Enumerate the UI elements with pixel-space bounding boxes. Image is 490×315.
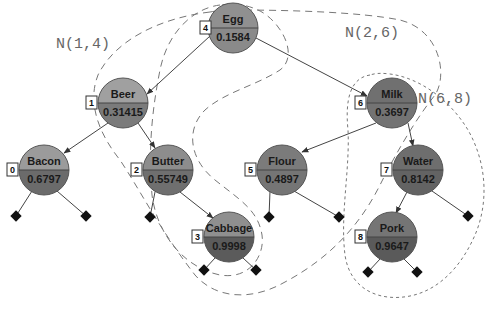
edge-beer-butter — [138, 123, 155, 148]
node-water[interactable]: Water 0.8142 7 — [381, 145, 443, 195]
node-egg[interactable]: Egg 0.1584 4 — [200, 3, 258, 53]
region-label-n68: N(6,8) — [418, 91, 472, 108]
node-priority: 0.55749 — [148, 173, 188, 185]
edge-butter-cabbage — [180, 192, 213, 218]
node-priority: 0.3697 — [375, 106, 409, 118]
node-butter[interactable]: Butter 0.55749 2 — [131, 145, 193, 195]
node-key: 7 — [384, 165, 389, 175]
node-name: Cabbage — [206, 222, 252, 234]
node-key: 2 — [134, 165, 139, 175]
edge-water-pork — [396, 192, 407, 213]
node-priority: 0.4897 — [265, 173, 299, 185]
edge-egg-beer — [147, 36, 210, 94]
leaf-null-icon — [263, 211, 274, 222]
node-name: Milk — [381, 88, 403, 100]
node-name: Pork — [380, 222, 405, 234]
region-label-n26: N(2,6) — [345, 25, 399, 42]
node-key: 0 — [10, 165, 15, 175]
treap-diagram: N(1,4) N(2,6) N(6,8) — [0, 0, 490, 315]
node-cabbage[interactable]: Cabbage 0.9998 3 — [192, 212, 254, 262]
node-name: Flour — [268, 155, 296, 167]
node-key: 1 — [89, 98, 94, 108]
leaf-null-icon — [333, 211, 344, 222]
node-name: Egg — [223, 13, 244, 25]
node-priority: 0.9647 — [375, 240, 409, 252]
node-priority: 0.8142 — [401, 173, 435, 185]
node-key: 5 — [248, 165, 253, 175]
node-key: 3 — [195, 232, 200, 242]
node-pork[interactable]: Pork 0.9647 8 — [355, 212, 417, 262]
node-priority: 0.31415 — [103, 106, 143, 118]
leaf-null-icon — [10, 210, 21, 221]
leaf-null-icon — [462, 210, 473, 221]
node-key: 4 — [203, 23, 208, 33]
node-priority: 0.6797 — [27, 173, 61, 185]
edge-milk-flour — [302, 123, 376, 152]
node-name: Butter — [152, 155, 185, 167]
node-name: Bacon — [27, 155, 61, 167]
node-flour[interactable]: Flour 0.4897 5 — [245, 145, 307, 195]
node-priority: 0.1584 — [216, 31, 251, 43]
node-name: Beer — [111, 88, 136, 100]
node-key: 6 — [358, 98, 363, 108]
node-name: Water — [403, 155, 434, 167]
leaf-null-icon — [144, 211, 155, 222]
edge-egg-milk — [256, 38, 367, 96]
node-bacon[interactable]: Bacon 0.6797 0 — [7, 145, 69, 195]
region-label-n14: N(1,4) — [56, 36, 110, 53]
edge-beer-bacon — [64, 123, 108, 153]
node-milk[interactable]: Milk 0.3697 6 — [355, 78, 417, 128]
node-priority: 0.9998 — [212, 240, 246, 252]
node-key: 8 — [358, 232, 363, 242]
